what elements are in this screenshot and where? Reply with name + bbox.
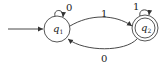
state-q1: q1: [44, 16, 70, 42]
state-q2-label: q2: [141, 22, 151, 34]
transition-q2-q2-label: 1: [133, 1, 139, 12]
automaton-diagram: q1 0 1 q2 1 0: [0, 0, 166, 66]
state-q1-label: q1: [53, 23, 63, 35]
transition-q1-q1-label: 0: [66, 2, 72, 13]
transition-q1-q2-label: 1: [101, 8, 107, 19]
state-q2: q2: [132, 15, 158, 41]
transition-q2-q1: [68, 39, 137, 49]
transition-q2-q1-label: 0: [101, 53, 107, 64]
